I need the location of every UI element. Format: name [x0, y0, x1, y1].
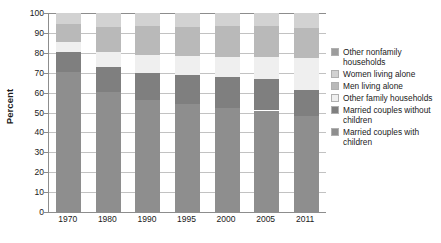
- bar-segment: [96, 92, 121, 212]
- y-axis-tick-label: 50: [18, 108, 44, 117]
- legend-item-label: Men living alone: [343, 81, 403, 91]
- bar-segment: [56, 24, 81, 42]
- chart-legend: Other nonfamily householdsWomen living a…: [331, 47, 439, 149]
- legend-swatch-icon: [331, 128, 339, 136]
- bar-segment: [215, 108, 240, 212]
- bar-segment: [96, 67, 121, 92]
- legend-swatch-icon: [331, 70, 339, 78]
- bar-segment: [175, 104, 200, 212]
- bar-segment: [56, 13, 81, 24]
- y-axis-tick-label: 30: [18, 148, 44, 157]
- bar-2011[interactable]: [294, 13, 319, 212]
- legend-item-label: Other nonfamily households: [343, 47, 439, 67]
- bar-2000[interactable]: [215, 13, 240, 212]
- bar-segment: [294, 13, 319, 28]
- legend-item[interactable]: Men living alone: [331, 81, 439, 91]
- bar-segment: [294, 90, 319, 117]
- bar-segment: [135, 55, 160, 73]
- legend-item[interactable]: Married couples with children: [331, 127, 439, 147]
- legend-swatch-icon: [331, 82, 339, 90]
- bar-segment: [175, 75, 200, 104]
- y-axis-tick-label: 90: [18, 29, 44, 38]
- bar-segment: [175, 56, 200, 75]
- bar-segment: [175, 13, 200, 27]
- bar-1990[interactable]: [135, 13, 160, 212]
- bar-segment: [96, 13, 121, 27]
- bar-segment: [254, 111, 279, 212]
- x-axis-tick-label: 1980: [85, 215, 129, 224]
- bar-segment: [56, 52, 81, 72]
- legend-item-label: Married couples with children: [343, 127, 439, 147]
- bar-1980[interactable]: [96, 13, 121, 212]
- bar-segment: [96, 52, 121, 67]
- y-axis-tick-label: 80: [18, 49, 44, 58]
- bar-segment: [56, 42, 81, 52]
- legend-item-label: Other family households: [343, 93, 432, 103]
- x-axis-tick-label: 1970: [46, 215, 90, 224]
- y-axis-tick-label: 20: [18, 168, 44, 177]
- stacked-bar-chart: Percent 0102030405060708090100 197019801…: [0, 0, 441, 243]
- y-axis-tick-label: 0: [18, 208, 44, 217]
- y-axis-tick-label: 60: [18, 88, 44, 97]
- bar-segment: [294, 58, 319, 90]
- legend-item[interactable]: Women living alone: [331, 69, 439, 79]
- y-axis-tick-label: 70: [18, 68, 44, 77]
- bar-segment: [215, 57, 240, 77]
- bar-segment: [215, 13, 240, 26]
- bar-segment: [294, 28, 319, 58]
- bar-segment: [215, 77, 240, 108]
- bar-1970[interactable]: [56, 13, 81, 212]
- bar-1995[interactable]: [175, 13, 200, 212]
- x-axis-tick-label: 1995: [165, 215, 209, 224]
- y-axis-tick-label: 40: [18, 128, 44, 137]
- legend-item[interactable]: Other family households: [331, 93, 439, 103]
- y-axis-tick-label: 100: [18, 9, 44, 18]
- x-axis-tick-group: 1970198019901995200020052011: [48, 215, 325, 231]
- legend-item[interactable]: Married couples without children: [331, 105, 439, 125]
- x-axis-tick-label: 1990: [125, 215, 169, 224]
- legend-swatch-icon: [331, 106, 339, 114]
- legend-swatch-icon: [331, 48, 339, 56]
- bar-segment: [254, 26, 279, 57]
- y-axis-tick-group: 0102030405060708090100: [14, 13, 44, 212]
- bar-segment: [175, 27, 200, 56]
- bar-segment: [135, 73, 160, 100]
- x-axis-tick-label: 2011: [283, 215, 327, 224]
- legend-item-label: Women living alone: [343, 69, 415, 79]
- bar-2005[interactable]: [254, 13, 279, 212]
- x-axis-tick-label: 2005: [244, 215, 288, 224]
- legend-item-label: Married couples without children: [343, 105, 439, 125]
- legend-swatch-icon: [331, 94, 339, 102]
- bar-segment: [135, 13, 160, 26]
- x-axis-tick-label: 2000: [204, 215, 248, 224]
- bar-segment: [254, 79, 279, 111]
- y-axis-tick-label: 10: [18, 188, 44, 197]
- plot-area: [48, 13, 326, 213]
- bar-segment: [294, 116, 319, 212]
- bar-segment: [254, 57, 279, 79]
- bar-segment: [215, 26, 240, 57]
- bar-segment: [96, 27, 121, 52]
- bar-segment: [56, 72, 81, 212]
- legend-item[interactable]: Other nonfamily households: [331, 47, 439, 67]
- bar-segment: [254, 13, 279, 26]
- bar-segment: [135, 100, 160, 212]
- bar-segment: [135, 26, 160, 55]
